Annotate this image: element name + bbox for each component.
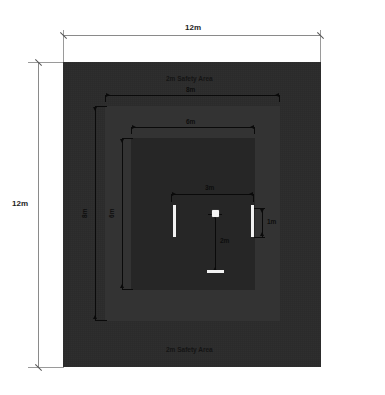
penalty-distance-label: 2m <box>220 238 229 245</box>
inner-area-height-label: 6m <box>109 209 116 218</box>
dim6m-horizontal-arrow-right <box>250 125 254 129</box>
dim3m-arrow-left <box>172 192 176 196</box>
zone-6m <box>131 138 255 290</box>
left-dim-extension-top <box>28 62 64 63</box>
dim6m-vertical-tick-bottom <box>122 289 133 290</box>
dim3m-arrow-right <box>249 192 253 196</box>
outer-band-width-label: 8m <box>186 87 195 94</box>
safety-area-bottom-label: 2m Safety Area <box>166 347 213 354</box>
dim1m-arrow-top <box>260 209 264 213</box>
dim8m-vertical-arrow-top <box>93 107 97 111</box>
dim1m-arrow-bottom <box>260 232 264 236</box>
center-spot-marker <box>212 210 219 217</box>
dim8m-vertical-arrow-bottom <box>93 315 97 319</box>
dim6m-horizontal-tick-right <box>254 127 255 134</box>
dim3m-tick-right <box>253 194 254 202</box>
penalty-mark <box>207 270 224 273</box>
dim8m-horizontal-arrow-right <box>275 93 279 97</box>
drawing-canvas: 12m 12m 2m Safety Area 2m Safety Area 8m… <box>0 0 385 395</box>
goal-post-left <box>173 205 176 237</box>
safety-area-top-label: 2m Safety Area <box>166 76 213 83</box>
dim6m-vertical-arrow-top <box>120 139 124 143</box>
dim6m-vertical-line <box>122 138 123 290</box>
dim8m-horizontal-arrow-left <box>106 93 110 97</box>
goal-width-label: 3m <box>205 185 214 192</box>
goal-post-right <box>251 205 254 237</box>
overall-height-label: 12m <box>12 200 28 208</box>
outer-band-height-label: 8m <box>82 209 89 218</box>
dim8m-vertical-tick-bottom <box>95 320 107 321</box>
dim2m-line <box>215 214 216 273</box>
dim6m-horizontal-arrow-left <box>132 125 136 129</box>
goal-depth-label: 1m <box>267 219 276 226</box>
dim8m-horizontal-tick-right <box>279 95 280 102</box>
inner-area-width-label: 6m <box>186 119 195 126</box>
left-dim-extension-bottom <box>28 367 64 368</box>
field-outer-safety-area: 2m Safety Area 2m Safety Area 8m 8m 6m 6… <box>63 62 321 367</box>
left-dim-line <box>38 62 39 367</box>
dim3m-line <box>171 194 254 195</box>
dim8m-vertical-line <box>95 106 96 321</box>
dim8m-horizontal-line <box>105 95 280 96</box>
overall-width-label: 12m <box>185 24 201 32</box>
top-dim-line <box>63 35 321 36</box>
dim6m-vertical-arrow-bottom <box>120 284 124 288</box>
dim6m-horizontal-line <box>131 127 255 128</box>
dim1m-tick-bottom <box>254 237 265 238</box>
